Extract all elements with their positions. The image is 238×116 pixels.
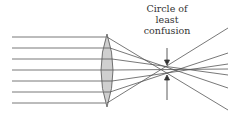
incoming-rays [12, 37, 107, 103]
optics-figure [0, 0, 238, 116]
spherical-aberration-diagram: Circle of least confusion [0, 0, 238, 116]
refracted-ray [107, 37, 228, 110]
refracted-ray [114, 69, 228, 70]
refracted-ray [107, 28, 228, 103]
convex-lens [101, 34, 113, 107]
down-arrow-icon [165, 60, 170, 65]
up-arrow-icon [165, 75, 170, 80]
label-line-3: confusion [138, 25, 196, 36]
label-line-1: Circle of [138, 3, 196, 14]
refracted-rays [107, 28, 228, 110]
label-line-2: least [138, 14, 196, 25]
circle-of-least-confusion-label: Circle of least confusion [138, 3, 196, 36]
refracted-ray [110, 48, 228, 88]
